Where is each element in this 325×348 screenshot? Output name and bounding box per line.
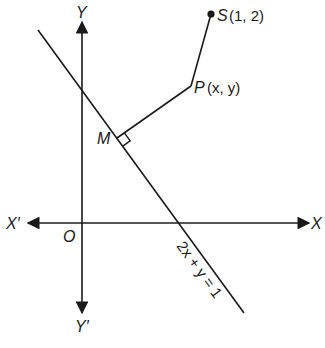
svg-text:(1, 2): (1, 2)	[229, 7, 264, 24]
segment-ps	[191, 14, 211, 86]
svg-text:S: S	[217, 7, 228, 24]
point-s-dot	[207, 10, 214, 17]
point-m-label: M	[97, 130, 111, 147]
point-s-label: S (1, 2)	[217, 7, 264, 24]
x-axis-label: X	[310, 215, 323, 232]
segment-pm	[117, 86, 191, 138]
origin-label: O	[63, 228, 75, 245]
svg-text:P: P	[194, 79, 205, 96]
x-negative-axis-label: X′	[5, 215, 21, 232]
line-2x-plus-y-equals-1	[38, 30, 244, 313]
y-axis-label: Y	[76, 4, 88, 21]
line-equation-label: 2x + y = 1	[174, 238, 226, 301]
coordinate-diagram: Y Y′ X′ X O M P (x, y) S (1, 2) 2x + y =…	[0, 0, 325, 348]
point-p-label: P (x, y)	[194, 79, 240, 96]
right-angle-marker	[123, 133, 130, 146]
svg-text:(x, y): (x, y)	[207, 79, 240, 96]
y-negative-axis-label: Y′	[75, 318, 90, 335]
